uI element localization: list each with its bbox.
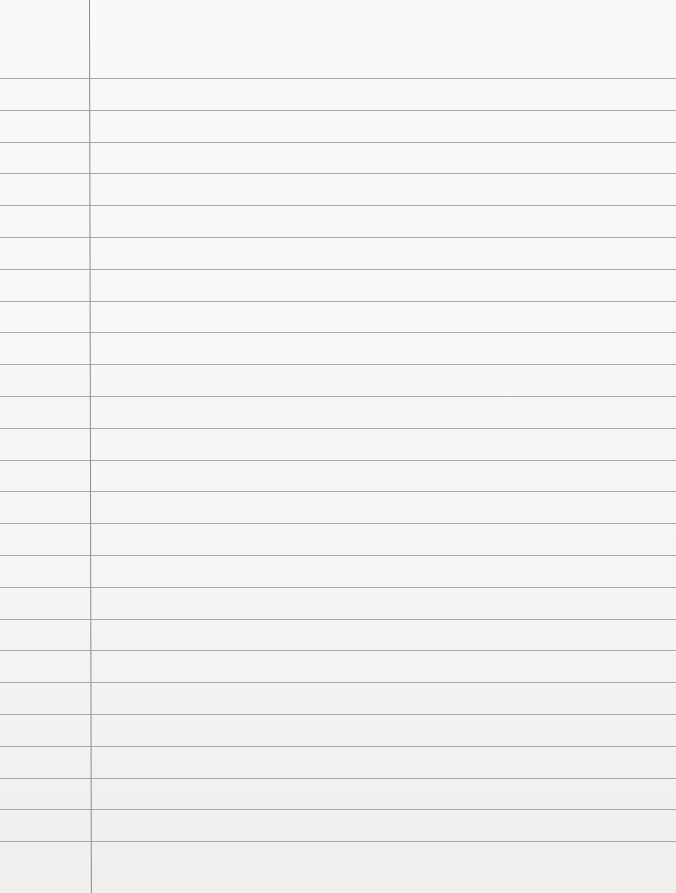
margin-line	[89, 0, 92, 893]
ruled-line	[0, 237, 676, 238]
ruled-line	[0, 142, 676, 143]
ruled-line	[0, 428, 676, 429]
ruled-line	[0, 110, 676, 111]
ruled-line	[0, 650, 676, 651]
ruled-line	[0, 619, 676, 620]
ruled-line	[0, 587, 676, 588]
ruled-line	[0, 269, 676, 270]
ruled-line	[0, 746, 676, 747]
ruled-line	[0, 460, 676, 461]
ruled-line	[0, 714, 676, 715]
ruled-line	[0, 523, 676, 524]
ruled-line	[0, 364, 676, 365]
ruled-line	[0, 682, 676, 683]
ruled-line	[0, 841, 676, 842]
ruled-line	[0, 332, 676, 333]
ruled-line	[0, 555, 676, 556]
ruled-line	[0, 301, 676, 302]
ruled-line	[0, 809, 676, 810]
lined-paper-sheet	[0, 0, 676, 893]
ruled-line	[0, 778, 676, 779]
ruled-line	[0, 205, 676, 206]
ruled-line	[0, 491, 676, 492]
ruled-line	[0, 396, 676, 397]
ruled-line	[0, 78, 676, 79]
ruled-line	[0, 173, 676, 174]
